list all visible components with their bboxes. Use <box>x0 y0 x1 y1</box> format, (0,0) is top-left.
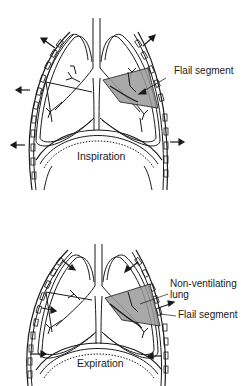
non-ventilating-label-line1: Non-ventilating <box>170 278 237 289</box>
expiration-caption: Expiration <box>77 357 124 369</box>
inspiration-panel: Flail segment Inspiration <box>0 0 250 190</box>
flail-segment-label-expiration: Flail segment <box>178 309 237 320</box>
non-ventilating-region <box>105 284 160 326</box>
non-ventilating-lung-label: Non-ventilating lung <box>170 278 237 300</box>
expiration-diagram <box>0 230 250 386</box>
expiration-panel: Non-ventilating lung Flail segment Expir… <box>0 230 250 386</box>
flail-segment-label: Flail segment <box>174 65 233 76</box>
non-ventilating-label-line2: lung <box>170 289 237 300</box>
inspiration-caption: Inspiration <box>77 150 125 162</box>
flail-region <box>103 68 158 108</box>
